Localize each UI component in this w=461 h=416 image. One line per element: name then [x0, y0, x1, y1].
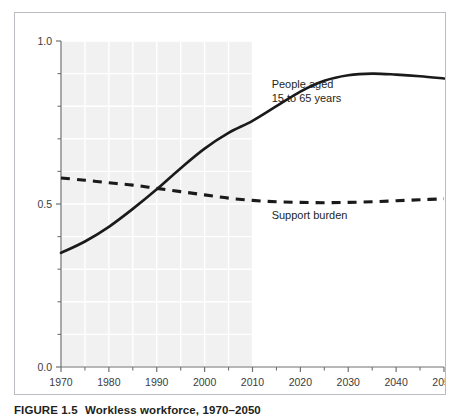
y-axis-tick-labels: 0.00.51.0: [37, 35, 52, 373]
x-tick-label: 2030: [337, 376, 361, 388]
series-label-1: 15 to 65 years: [272, 92, 342, 104]
figure-caption-number: FIGURE 1.5: [14, 404, 78, 416]
x-tick-label: 1990: [145, 376, 169, 388]
figure-caption-title: Workless workforce, 1970–2050: [85, 404, 261, 416]
series-labels: People aged15 to 65 yearsSupport burden: [272, 78, 348, 220]
series-label-2: Support burden: [272, 209, 348, 221]
y-tick-label: 0.5: [37, 198, 52, 210]
figure-caption: FIGURE 1.5 Workless workforce, 1970–2050: [14, 404, 454, 416]
x-tick-label: 2000: [193, 376, 217, 388]
x-tick-label: 1980: [97, 376, 121, 388]
x-axis-ticks: [61, 367, 444, 372]
x-tick-label: 2050: [432, 376, 445, 388]
figure-frame: 0.00.51.0 197019801990200020102020203020…: [14, 12, 446, 395]
x-tick-label: 2010: [241, 376, 265, 388]
x-axis-tick-labels: 197019801990200020102020203020402050: [49, 376, 445, 388]
series-label-1: People aged: [272, 78, 334, 90]
y-tick-label: 0.0: [37, 361, 52, 373]
y-tick-label: 1.0: [37, 35, 52, 47]
y-axis-ticks: [56, 41, 61, 367]
figure-container: 0.00.51.0 197019801990200020102020203020…: [0, 0, 461, 416]
x-tick-label: 1970: [49, 376, 73, 388]
line-chart: 0.00.51.0 197019801990200020102020203020…: [15, 13, 445, 394]
x-tick-label: 2020: [289, 376, 313, 388]
x-tick-label: 2040: [384, 376, 408, 388]
